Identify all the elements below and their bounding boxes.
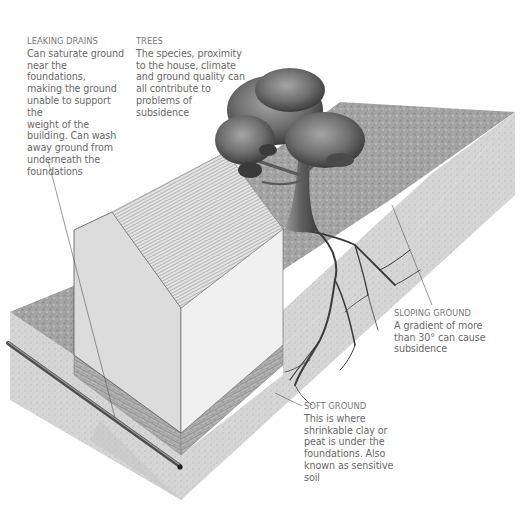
label-title: SLOPING GROUND [394,308,524,320]
label-soft-ground: SOFT GROUND This is where shrinkable cla… [304,401,414,484]
label-body: This is where shrinkable clay or peat is… [304,413,414,484]
label-leaking-drains: LEAKING DRAINS Can saturate ground near … [27,36,127,178]
label-body: The species, proximity to the house, cli… [136,48,246,119]
label-title: SOFT GROUND [304,401,414,413]
label-body: Can saturate ground near the foundations… [27,48,127,178]
label-title: LEAKING DRAINS [27,36,127,48]
label-trees: TREES The species, proximity to the hous… [136,36,246,119]
label-sloping-ground: SLOPING GROUND A gradient of more than 3… [394,308,524,355]
label-body: A gradient of more than 30° can cause su… [394,320,524,355]
label-title: TREES [136,36,246,48]
